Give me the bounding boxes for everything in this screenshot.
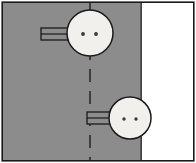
upper-hole-left (81, 32, 85, 36)
upper-hole-right (94, 32, 98, 36)
technical-drawing-svg (0, 0, 196, 163)
upper-fastener (67, 10, 113, 56)
figure-canvas (0, 0, 196, 163)
lower-hole-right (134, 117, 137, 120)
white-panel (141, 3, 193, 160)
upper-fastener-body (67, 10, 113, 56)
lower-hole-left (122, 117, 125, 120)
lower-fastener (109, 97, 151, 139)
lower-fastener-body (109, 97, 151, 139)
